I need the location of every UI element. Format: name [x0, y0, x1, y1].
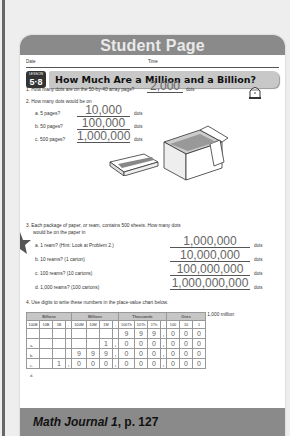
date-label: Date: [26, 59, 36, 64]
answer-3c: 100,000,000: [170, 263, 250, 276]
date-time-line: Date Time: [26, 55, 279, 68]
answer-3b: 10,000,000: [170, 249, 250, 262]
lesson-badge: LESSON 5·8: [26, 71, 46, 88]
question-3: 3. Each package of paper, or ream, conta…: [26, 223, 181, 228]
answer-2c: 1,000,000: [77, 130, 130, 143]
footer-reference: Math Journal 1, p. 127: [33, 415, 158, 429]
table-row: 1, 000, 000, 000: [27, 359, 206, 369]
carton-illustration: [160, 124, 230, 182]
column-headers: 100B 10B 1B , 100M 10M 1M , 100Th 10Th 1…: [27, 321, 206, 329]
math-boxes-icon: [247, 84, 263, 100]
place-value-chart: Billions Millions Thousands Ones 100B 10…: [26, 312, 206, 369]
student-page-card: Student Page Date Time LESSON 5·8 How Mu…: [20, 35, 285, 436]
page-edge: [2, 0, 5, 436]
question-4: 4. Use digits to write these numbers in …: [26, 300, 168, 305]
answer-3d: 1,000,000,000: [170, 277, 250, 290]
ream-illustration: [108, 152, 160, 176]
answer-1: 2,000: [147, 80, 183, 93]
lesson-number: 5·8: [26, 77, 46, 87]
page-header: Student Page: [20, 35, 285, 55]
time-label: Time: [148, 59, 158, 64]
answer-3a: 1,000,000: [170, 235, 250, 248]
table-row: 1, 000, 000: [27, 339, 206, 349]
footer-bar: Math Journal 1, p. 127: [20, 408, 285, 436]
table-row: 999, 000, 000: [27, 349, 206, 359]
question-1: 1. How many dots are on the 50-by-40 arr…: [26, 87, 135, 92]
star-icon: [20, 231, 32, 255]
table-row: 999, 000: [27, 329, 206, 339]
